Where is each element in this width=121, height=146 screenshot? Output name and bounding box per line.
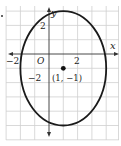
y-axis-label: y [50, 7, 57, 18]
x-tick-neg-label: −2 [6, 56, 19, 66]
center-point-label: (1, −1) [52, 73, 82, 83]
y-tick-neg-label: −2 [28, 73, 41, 83]
y-tick-pos-label: 2 [40, 21, 46, 31]
y-axis-arrow-down-icon [47, 132, 51, 137]
center-point [61, 66, 66, 71]
x-axis-label: x [110, 40, 116, 51]
bullet-dot [1, 15, 3, 17]
origin-label: O [37, 56, 45, 66]
x-tick-pos-label: 2 [74, 56, 80, 66]
ellipse-graph: x y 2 −2 O 2 −2 (1, −1) [0, 0, 121, 146]
